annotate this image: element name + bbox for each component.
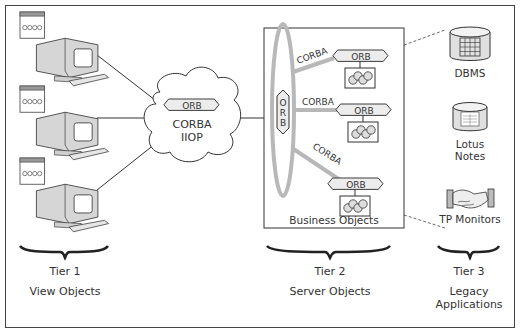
tier1-description: View Objects	[29, 285, 100, 298]
business-objects-caption: Business Objects	[289, 214, 378, 226]
svg-text:Notes: Notes	[455, 150, 485, 162]
svg-text:R: R	[280, 108, 286, 118]
business-object-icon	[345, 68, 375, 88]
tp-monitors-label: TP Monitors	[438, 213, 500, 225]
business-object-icon	[348, 122, 378, 142]
database-icon	[450, 27, 490, 61]
lotus-notes-label: Lotus	[456, 138, 484, 150]
tier2-description: Server Objects	[289, 285, 370, 298]
tier1-name: Tier 1	[49, 265, 80, 278]
tier1-brace	[20, 246, 108, 258]
business-object-icon	[340, 196, 370, 216]
handshake-icon	[447, 189, 494, 208]
connection-line	[97, 140, 160, 190]
tier3-description-line1: Legacy	[450, 285, 489, 298]
cloud-icon	[144, 67, 241, 162]
tier2-name: Tier 2	[314, 265, 345, 278]
three-tier-diagram: ORB CORBA IIOP O R B CORBA CORBA CORBA O…	[0, 0, 521, 334]
svg-text:ORB: ORB	[354, 106, 374, 116]
document-database-icon	[453, 103, 487, 131]
computer-terminal-icon	[20, 158, 109, 232]
cloud-corba-label: CORBA	[172, 118, 212, 131]
cloud-orb-label: ORB	[182, 101, 202, 111]
svg-text:ORB: ORB	[351, 52, 371, 62]
tier3-name: Tier 3	[453, 265, 484, 278]
tier3-brace	[438, 246, 499, 258]
computer-terminal-icon	[20, 12, 109, 86]
corba-link-label: CORBA	[302, 97, 335, 107]
svg-text:B: B	[280, 118, 286, 128]
tier3-description-line2: Applications	[435, 298, 502, 311]
dbms-label: DBMS	[454, 67, 485, 79]
tier2-brace	[267, 246, 390, 258]
dashed-link	[404, 30, 445, 45]
svg-text:ORB: ORB	[346, 180, 366, 190]
cloud-iiop-label: IIOP	[181, 131, 203, 144]
svg-text:O: O	[279, 98, 286, 108]
computer-terminal-icon	[20, 86, 109, 160]
